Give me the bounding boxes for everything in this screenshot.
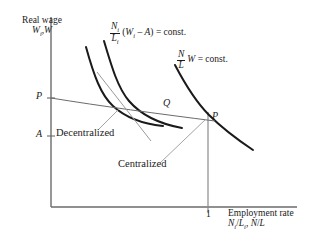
- x-axis-title-line2: Ni/Li, N/L: [228, 219, 294, 231]
- point-label-A-axis: A: [36, 129, 42, 140]
- callout-centralized: Centralized: [118, 158, 166, 169]
- equation-decentralized-isoprofit: Ni Li (Wi – A) = const.: [110, 22, 186, 46]
- x-axis-title-line1: Employment rate: [228, 208, 294, 218]
- y-axis-title-line2: Wi,W: [6, 26, 78, 38]
- x-axis-title: Employment rate Ni/Li, N/L: [228, 209, 294, 231]
- fraction-denominator: L: [178, 61, 185, 71]
- leader-line-centralized: [160, 119, 206, 163]
- fraction-Ni-over-Li: Ni Li: [110, 22, 120, 46]
- equation-body: W = const.: [187, 55, 227, 65]
- y-axis-title-line1: Real wage: [22, 15, 62, 25]
- equation-centralized-isoprofit: N L W = const.: [177, 50, 228, 70]
- x-axis-tick-label-one: 1: [206, 210, 211, 220]
- fraction-denominator: Li: [111, 34, 120, 45]
- point-label-P-axis: P: [36, 91, 42, 102]
- fraction-numerator: N: [177, 50, 185, 61]
- callout-decentralized: Decentralized: [56, 127, 114, 138]
- equation-body: (Wi – A) = const.: [122, 28, 186, 40]
- economics-diagram: Real wage Wi,W Ni Li (Wi – A) = const. N…: [0, 0, 316, 250]
- y-axis-title: Real wage Wi,W: [6, 16, 78, 38]
- curve-decentralized-isoprofit-inner: [86, 47, 163, 126]
- fraction-N-over-L: N L: [177, 50, 185, 70]
- point-label-P-right: P: [212, 111, 218, 122]
- point-label-Q: Q: [163, 98, 170, 109]
